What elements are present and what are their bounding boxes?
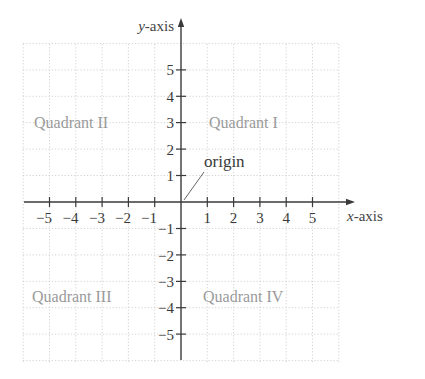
x-tick-labels: −5 −4 −3 −2 −1 1 2 3 4 5	[36, 210, 316, 226]
x-tick-label: −5	[36, 210, 52, 226]
x-tick-label: 5	[309, 210, 317, 226]
x-axis-title: x-axis	[346, 208, 383, 224]
quadrant-ii-label: Quadrant II	[34, 114, 108, 131]
x-tick-label: 4	[282, 210, 290, 226]
quadrant-iii-label: Quadrant III	[32, 288, 112, 305]
quadrant-iv-label: Quadrant IV	[203, 288, 284, 305]
x-axis	[24, 199, 355, 205]
x-tick-label: 1	[204, 210, 212, 226]
x-tick-label: −4	[63, 210, 79, 226]
coordinate-plane-diagram: −5 −4 −3 −2 −1 1 2 3 4 5 5 4 3 2 1 −1 −2…	[0, 0, 425, 379]
y-tick-label: 1	[167, 168, 175, 184]
y-tick-label: −5	[158, 327, 174, 343]
y-axis-arrow-icon	[178, 18, 184, 27]
y-tick-label: −4	[158, 300, 174, 316]
y-tick-label: 4	[167, 89, 175, 105]
y-tick-label: 5	[167, 62, 175, 78]
quadrant-i-label: Quadrant I	[209, 114, 278, 131]
origin-leader-line	[184, 172, 204, 200]
y-axis-title-var: y	[136, 18, 145, 34]
y-tick-label: 3	[167, 115, 175, 131]
y-tick-label: −2	[158, 248, 174, 264]
x-tick-label: −2	[115, 210, 131, 226]
x-axis-title-rest: -axis	[354, 208, 383, 224]
y-axis-title: y-axis	[136, 18, 174, 34]
y-axis-title-rest: -axis	[145, 18, 174, 34]
x-tick-label: 2	[230, 210, 238, 226]
y-tick-label: −1	[158, 221, 174, 237]
x-tick-label: −1	[141, 210, 157, 226]
origin-label: origin	[204, 152, 245, 171]
x-tick-label: 3	[256, 210, 264, 226]
y-tick-label: −3	[158, 274, 174, 290]
x-tick-label: −3	[89, 210, 105, 226]
x-axis-arrow-icon	[346, 199, 355, 205]
y-tick-label: 2	[167, 142, 175, 158]
